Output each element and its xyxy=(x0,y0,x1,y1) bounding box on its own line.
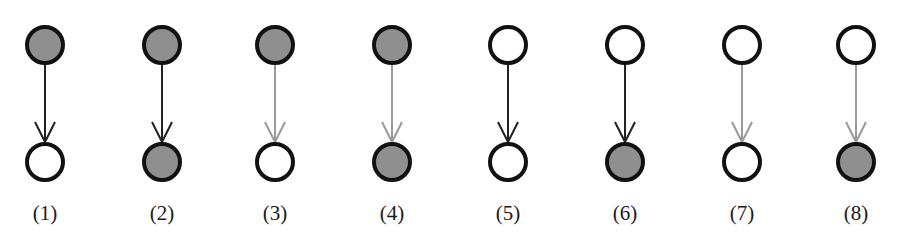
panel-3: (3) xyxy=(257,27,293,225)
panel-label: (2) xyxy=(150,201,175,225)
panel-label: (3) xyxy=(263,201,288,225)
node-top-filled xyxy=(374,27,410,63)
node-bottom-filled xyxy=(374,144,410,180)
node-bottom-empty xyxy=(257,144,293,180)
node-bottom-empty xyxy=(27,144,63,180)
node-bottom-empty xyxy=(490,144,526,180)
panel-5: (5) xyxy=(490,27,526,225)
node-bottom-filled xyxy=(144,144,180,180)
panel-7: (7) xyxy=(724,27,760,225)
panel-2: (2) xyxy=(144,27,180,225)
panel-4: (4) xyxy=(374,27,410,225)
node-top-filled xyxy=(27,27,63,63)
node-top-empty xyxy=(607,27,643,63)
node-top-filled xyxy=(144,27,180,63)
node-bottom-empty xyxy=(724,144,760,180)
panel-8: (8) xyxy=(838,27,874,225)
panel-label: (1) xyxy=(33,201,58,225)
diagram-canvas: (1)(2)(3)(4)(5)(6)(7)(8) xyxy=(0,0,902,235)
node-top-empty xyxy=(724,27,760,63)
panel-label: (7) xyxy=(730,201,755,225)
panel-label: (8) xyxy=(844,201,869,225)
panel-label: (5) xyxy=(496,201,521,225)
panel-1: (1) xyxy=(27,27,63,225)
panels-group: (1)(2)(3)(4)(5)(6)(7)(8) xyxy=(27,27,874,225)
node-top-filled xyxy=(257,27,293,63)
panel-6: (6) xyxy=(607,27,643,225)
node-top-empty xyxy=(490,27,526,63)
panel-label: (6) xyxy=(613,201,638,225)
node-top-empty xyxy=(838,27,874,63)
node-bottom-filled xyxy=(607,144,643,180)
node-bottom-filled xyxy=(838,144,874,180)
panel-label: (4) xyxy=(380,201,405,225)
